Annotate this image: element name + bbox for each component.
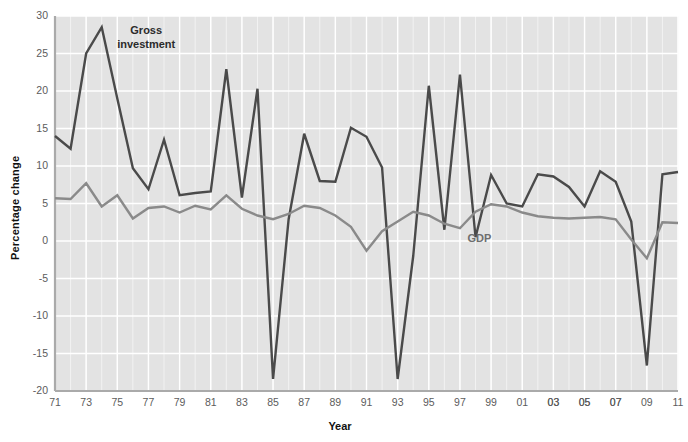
- x-tick-label: 93: [384, 396, 412, 408]
- x-tick-label: 81: [197, 396, 225, 408]
- series-label-word: Gross: [130, 24, 162, 36]
- y-tick-label: -15: [14, 347, 48, 359]
- x-tick-label: 85: [259, 396, 287, 408]
- x-tick-label: 83: [228, 396, 256, 408]
- y-tick-label: -10: [14, 309, 48, 321]
- x-tick-label: 87: [290, 396, 318, 408]
- x-tick-label: 01: [508, 396, 536, 408]
- x-tick-label: 79: [166, 396, 194, 408]
- x-tick-label: 75: [103, 396, 131, 408]
- series-label-gdp: GDP: [467, 232, 491, 245]
- y-tick-label: 5: [14, 197, 48, 209]
- y-tick-label: -20: [14, 384, 48, 396]
- x-tick-label: 09: [633, 396, 661, 408]
- x-tick-label: 89: [321, 396, 349, 408]
- y-tick-label: 10: [14, 159, 48, 171]
- y-tick-label: 20: [14, 84, 48, 96]
- y-tick-label: 15: [14, 122, 48, 134]
- x-tick-label: 95: [415, 396, 443, 408]
- x-tick-label: 73: [72, 396, 100, 408]
- x-tick-label: 07: [602, 396, 630, 408]
- x-tick-label: 71: [41, 396, 69, 408]
- series-label-word: investment: [117, 38, 175, 50]
- x-tick-label: 11: [664, 396, 688, 408]
- x-tick-label: 05: [571, 396, 599, 408]
- x-tick-label: 97: [446, 396, 474, 408]
- series-label-gross-investment: Grossinvestment: [117, 24, 175, 51]
- x-tick-label: 77: [134, 396, 162, 408]
- x-axis-title: Year: [328, 420, 351, 432]
- y-tick-label: 0: [14, 234, 48, 246]
- x-tick-label: 99: [477, 396, 505, 408]
- y-tick-label: 25: [14, 47, 48, 59]
- x-tick-label: 91: [353, 396, 381, 408]
- y-tick-label: -5: [14, 272, 48, 284]
- x-tick-label: 03: [539, 396, 567, 408]
- y-tick-label: 30: [14, 9, 48, 21]
